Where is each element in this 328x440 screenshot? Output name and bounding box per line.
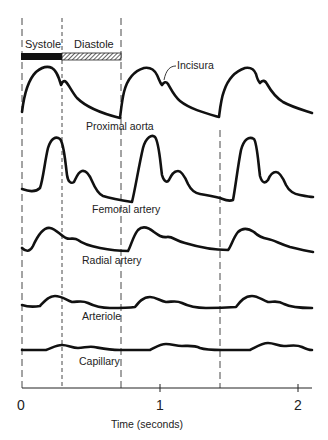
diastole-label: Diastole (74, 38, 114, 50)
x-tick-label-1: 1 (156, 397, 164, 413)
proximal-aorta-trace (22, 67, 312, 118)
x-axis-label: Time (seconds) (111, 418, 183, 430)
arteriole-label: Arteriole (82, 310, 121, 322)
femoral-artery-label: Femoral artery (92, 203, 161, 215)
radial-artery-trace (22, 228, 313, 252)
pulse-waveform-diagram: Systole Diastole Incisura Proximal aorta… (0, 0, 328, 440)
capillary-label: Capillary (79, 355, 121, 367)
radial-artery-label: Radial artery (82, 254, 142, 266)
x-tick-label-0: 0 (17, 397, 25, 413)
systole-bar (21, 53, 62, 60)
x-tick-label-2: 2 (294, 397, 302, 413)
diastole-bar (62, 53, 121, 60)
proximal-aorta-label: Proximal aorta (86, 120, 154, 132)
capillary-trace (22, 343, 312, 350)
incisura-pointer (164, 66, 176, 80)
arteriole-trace (22, 296, 312, 308)
femoral-artery-trace (22, 136, 313, 202)
systole-label: Systole (25, 38, 61, 50)
incisura-label: Incisura (177, 59, 214, 71)
